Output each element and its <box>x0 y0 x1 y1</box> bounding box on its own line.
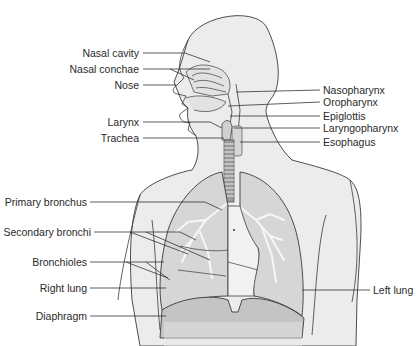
label-bronchioles: Bronchioles <box>32 256 87 268</box>
label-trachea: Trachea <box>101 132 139 144</box>
label-larynx: Larynx <box>107 116 139 128</box>
label-nasal-cavity: Nasal cavity <box>82 47 139 59</box>
label-esophagus: Esophagus <box>323 136 376 148</box>
label-left-lung: Left lung <box>373 284 413 296</box>
label-diaphragm: Diaphragm <box>36 310 87 322</box>
label-nasopharynx: Nasopharynx <box>323 84 385 96</box>
respiratory-diagram: Nasal cavity Nasal conchae Nose Larynx T… <box>0 0 419 346</box>
label-secondary-bronchi: Secondary bronchi <box>3 226 91 238</box>
label-oropharynx: Oropharynx <box>323 96 378 108</box>
label-nasal-conchae: Nasal conchae <box>70 63 139 75</box>
anatomy-illustration <box>0 0 419 346</box>
label-nose: Nose <box>114 79 139 91</box>
label-laryngopharynx: Laryngopharynx <box>323 122 398 134</box>
label-epiglottis: Epiglottis <box>323 110 366 122</box>
label-primary-bronchus: Primary bronchus <box>5 196 87 208</box>
label-right-lung: Right lung <box>40 282 87 294</box>
